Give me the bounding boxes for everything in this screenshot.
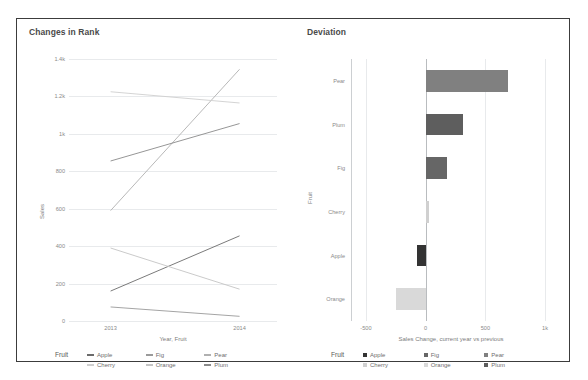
line-chart-legend[interactable]: AppleFigPearCherryOrangePlum <box>87 350 259 370</box>
category-label-apple: Apple <box>301 253 345 259</box>
bar-chart-plot-area <box>351 59 551 321</box>
line-series-fig[interactable] <box>111 307 240 316</box>
bar-plum[interactable] <box>426 114 463 136</box>
y-tick-label: 1.4k <box>43 56 65 62</box>
panel-title-changes-in-rank: Changes in Rank <box>29 27 99 37</box>
zero-axis-line <box>426 59 427 321</box>
bar-chart-y-axis-title: Fruit <box>307 192 313 204</box>
legend-item-orange[interactable]: Orange <box>146 360 201 370</box>
bar-apple[interactable] <box>417 245 426 267</box>
legend-swatch-line-icon <box>146 354 153 355</box>
legend-item-apple[interactable]: Apple <box>363 350 420 360</box>
legend-swatch-box-icon <box>424 353 428 357</box>
legend-swatch-box-icon <box>484 353 488 357</box>
line-series-pear[interactable] <box>111 69 240 210</box>
legend-item-fig[interactable]: Fig <box>424 350 481 360</box>
legend-item-pear[interactable]: Pear <box>484 350 541 360</box>
legend-swatch-box-icon <box>363 363 367 367</box>
category-label-fig: Fig <box>301 165 345 171</box>
y-tick-label: 400 <box>43 243 65 249</box>
bar-fig[interactable] <box>426 157 447 179</box>
legend-swatch-box-icon <box>424 363 428 367</box>
x-tick-label: 1k <box>529 325 561 331</box>
line-series-cherry[interactable] <box>111 92 240 103</box>
category-label-cherry: Cherry <box>301 209 345 215</box>
legend-item-pear[interactable]: Pear <box>204 350 259 360</box>
category-axis-line <box>351 59 352 321</box>
legend-swatch-line-icon <box>87 354 94 355</box>
line-series-plum[interactable] <box>111 124 240 161</box>
y-tick-label: 600 <box>43 206 65 212</box>
bar-chart-legend[interactable]: AppleFigPearCherryOrangePlum <box>363 350 541 370</box>
bar-pear[interactable] <box>426 70 508 92</box>
legend-swatch-line-icon <box>204 364 211 365</box>
legend-item-cherry[interactable]: Cherry <box>363 360 420 370</box>
y-tick-label: 1k <box>43 131 65 137</box>
legend-swatch-line-icon <box>146 364 153 365</box>
legend-swatch-box-icon <box>484 363 488 367</box>
legend-item-cherry[interactable]: Cherry <box>87 360 142 370</box>
gridline <box>366 59 367 321</box>
legend-swatch-line-icon <box>87 364 94 365</box>
bar-chart-x-axis-title: Sales Change, current year vs previous <box>341 336 561 342</box>
gridline <box>545 59 546 321</box>
legend-item-apple[interactable]: Apple <box>87 350 142 360</box>
line-chart-legend-title: Fruit <box>55 351 68 358</box>
legend-swatch-box-icon <box>363 353 367 357</box>
bar-orange[interactable] <box>396 288 426 310</box>
line-chart-x-axis-title: Year, Fruit <box>69 336 277 342</box>
panel-deviation: Deviation PearPlumFigCherryAppleOrange F… <box>295 19 571 361</box>
legend-item-plum[interactable]: Plum <box>204 360 259 370</box>
legend-item-label: Cherry <box>370 362 388 368</box>
dashboard-frame: Changes in Rank 02004006008001k1.2k1.4k … <box>16 18 570 362</box>
legend-item-label: Plum <box>214 362 228 368</box>
x-tick-label: -500 <box>350 325 382 331</box>
x-tick-label: 2013 <box>95 325 127 331</box>
legend-item-label: Orange <box>431 362 451 368</box>
legend-item-label: Fig <box>431 352 439 358</box>
x-tick-label: 500 <box>469 325 501 331</box>
y-tick-label: 0 <box>43 318 65 324</box>
legend-swatch-line-icon <box>204 354 211 355</box>
bar-cherry[interactable] <box>426 201 430 223</box>
legend-item-label: Fig <box>156 352 164 358</box>
line-chart-plot-area <box>69 59 277 321</box>
category-label-pear: Pear <box>301 78 345 84</box>
line-chart-y-axis-title: Sales <box>39 204 45 219</box>
legend-item-plum[interactable]: Plum <box>484 360 541 370</box>
panel-changes-in-rank: Changes in Rank 02004006008001k1.2k1.4k … <box>17 19 295 361</box>
category-label-orange: Orange <box>301 296 345 302</box>
gridline <box>485 59 486 321</box>
gridline <box>69 321 277 322</box>
y-tick-label: 800 <box>43 168 65 174</box>
legend-item-label: Plum <box>491 362 505 368</box>
legend-item-label: Cherry <box>97 362 115 368</box>
legend-item-label: Pear <box>491 352 504 358</box>
category-label-plum: Plum <box>301 122 345 128</box>
legend-item-label: Apple <box>370 352 385 358</box>
x-tick-label: 2014 <box>224 325 256 331</box>
legend-item-fig[interactable]: Fig <box>146 350 201 360</box>
line-series-group <box>69 59 277 321</box>
legend-item-label: Orange <box>156 362 176 368</box>
panel-title-deviation: Deviation <box>307 27 346 37</box>
x-tick-label: 0 <box>410 325 442 331</box>
legend-item-label: Apple <box>97 352 112 358</box>
y-tick-label: 1.2k <box>43 93 65 99</box>
legend-item-label: Pear <box>214 352 227 358</box>
y-tick-label: 200 <box>43 281 65 287</box>
bar-chart-legend-title: Fruit <box>331 351 344 358</box>
legend-item-orange[interactable]: Orange <box>424 360 481 370</box>
